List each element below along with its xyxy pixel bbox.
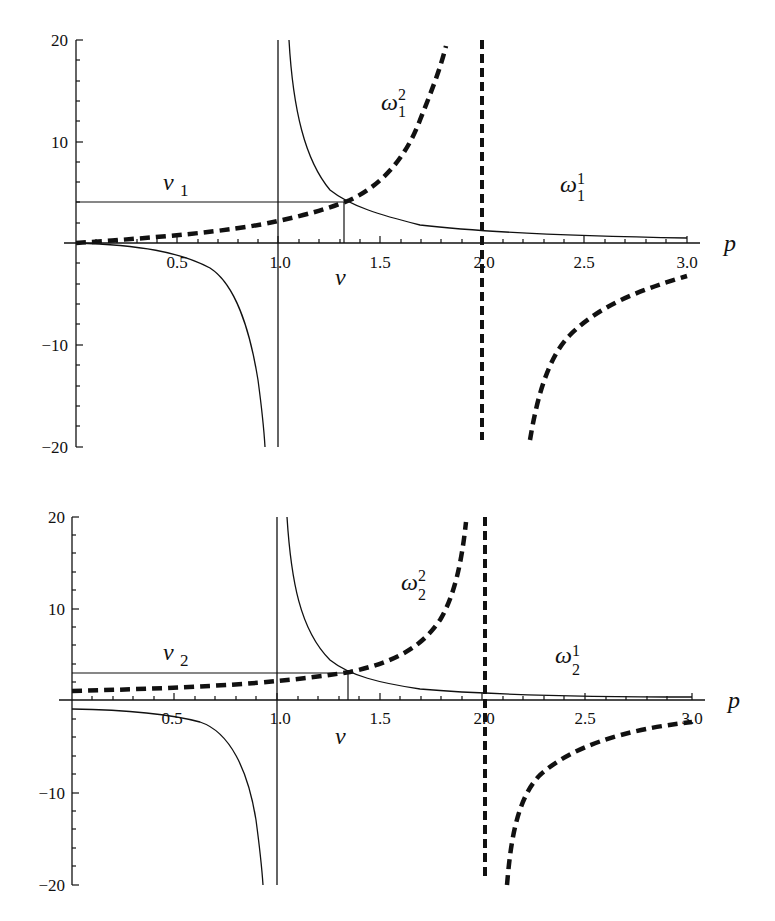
top-x-axis-label: p xyxy=(722,230,736,256)
top-nu1-label: ν 1 xyxy=(163,169,189,200)
bottom-dashed-curve-left xyxy=(72,522,466,691)
bottom-solid-curve-right xyxy=(287,517,692,697)
bottom-x-axis-label: p xyxy=(726,687,740,713)
svg-text:1: 1 xyxy=(572,642,580,659)
bottom-xtick-3.0: 3.0 xyxy=(681,709,702,728)
svg-text:2: 2 xyxy=(180,651,189,670)
top-ytick-neg20: −20 xyxy=(41,438,68,457)
top-xtick-3.0: 3.0 xyxy=(676,253,697,272)
top-xtick-1.5: 1.5 xyxy=(369,253,390,272)
svg-text:ν: ν xyxy=(163,639,174,665)
bottom-panel: 20 10 −10 −20 0.5 1.0 1.5 xyxy=(38,508,740,895)
top-ytick-20: 20 xyxy=(51,31,68,50)
top-ytick-neg10: −10 xyxy=(41,336,68,355)
bottom-ytick-20: 20 xyxy=(48,508,65,527)
top-x-ticks xyxy=(96,236,687,243)
bottom-nu-label: ν xyxy=(335,723,346,749)
top-panel: 20 10 −10 −20 0.5 1.0 1.5 xyxy=(41,31,736,457)
figure: 20 10 −10 −20 0.5 1.0 1.5 xyxy=(0,0,775,921)
svg-text:ω: ω xyxy=(560,171,577,197)
svg-text:2: 2 xyxy=(418,567,426,584)
svg-text:1: 1 xyxy=(577,187,585,204)
top-xtick-1.0: 1.0 xyxy=(269,253,290,272)
svg-text:1: 1 xyxy=(180,181,189,200)
svg-text:ω: ω xyxy=(555,642,572,668)
top-dashed-curve-left xyxy=(76,46,446,243)
bottom-omega-solid-label: ω 2 1 xyxy=(555,642,580,678)
bottom-omega-dashed-label: ω 2 2 xyxy=(401,567,426,603)
top-dashed-curve-right xyxy=(530,276,687,440)
svg-text:2: 2 xyxy=(418,586,426,603)
bottom-xtick-2.5: 2.5 xyxy=(574,709,595,728)
bottom-xtick-1.5: 1.5 xyxy=(369,709,390,728)
bottom-ytick-neg10: −10 xyxy=(38,784,65,803)
top-solid-curve-right xyxy=(289,40,687,238)
top-omega-dashed-label: ω 1 2 xyxy=(381,86,406,120)
svg-text:1: 1 xyxy=(577,170,585,187)
top-xtick-0.5: 0.5 xyxy=(166,253,187,272)
top-xtick-2.5: 2.5 xyxy=(573,253,594,272)
bottom-nu2-label: ν 2 xyxy=(163,639,189,670)
top-ytick-10: 10 xyxy=(51,133,68,152)
svg-text:2: 2 xyxy=(398,86,406,103)
bottom-solid-curve-left xyxy=(72,709,263,885)
svg-text:ω: ω xyxy=(381,89,398,115)
bottom-dashed-curve-right xyxy=(507,722,692,885)
top-omega-solid-label: ω 1 1 xyxy=(560,170,585,204)
top-nu-label: ν xyxy=(335,264,346,290)
bottom-y-ticks xyxy=(72,517,79,885)
bottom-ytick-10: 10 xyxy=(48,600,65,619)
bottom-xtick-1.0: 1.0 xyxy=(269,709,290,728)
svg-text:ω: ω xyxy=(401,569,418,595)
svg-text:1: 1 xyxy=(398,103,406,120)
svg-text:ν: ν xyxy=(163,169,174,195)
svg-text:2: 2 xyxy=(572,661,580,678)
bottom-xtick-0.5: 0.5 xyxy=(161,709,182,728)
top-solid-curve-left xyxy=(76,243,265,447)
bottom-ytick-neg20: −20 xyxy=(38,876,65,895)
